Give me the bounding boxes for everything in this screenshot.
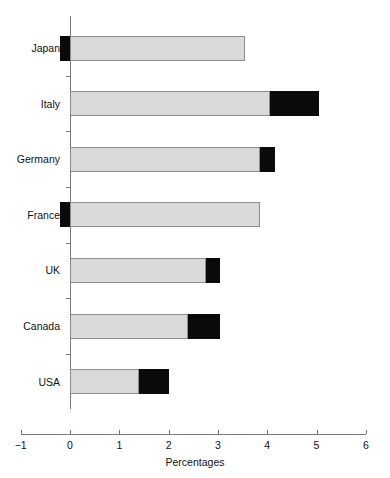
x-tick: [119, 430, 120, 434]
x-tick-label: 6: [363, 440, 369, 451]
x-tick-label: 4: [264, 440, 270, 451]
category-label-france: France: [27, 210, 60, 221]
y-tick: [66, 243, 70, 244]
category-label-italy: Italy: [41, 98, 60, 109]
x-tick-label: 2: [166, 440, 172, 451]
bar-segment-canada-grey: [70, 314, 188, 339]
bar-segment-usa-grey: [70, 369, 139, 394]
x-tick-label: 1: [116, 440, 122, 451]
x-tick: [21, 430, 22, 434]
plot-area: JapanItalyGermanyFranceUKCanadaUSA −1012…: [0, 0, 390, 478]
x-tick: [70, 430, 71, 434]
category-label-canada: Canada: [23, 321, 60, 332]
x-tick: [267, 430, 268, 434]
y-tick: [66, 76, 70, 77]
bar-segment-italy-grey: [70, 91, 270, 116]
bar-segment-usa-black: [139, 369, 169, 394]
bar-segment-france-grey: [70, 202, 260, 227]
x-tick-label: 3: [215, 440, 221, 451]
bar-segment-uk-black: [206, 258, 221, 283]
bar-segment-france-black: [60, 202, 70, 227]
x-axis-line: [21, 434, 366, 435]
category-label-uk: UK: [45, 265, 60, 276]
bar-segment-japan-black: [60, 36, 70, 61]
x-tick: [218, 430, 219, 434]
x-tick-label: 0: [67, 440, 73, 451]
y-tick: [66, 354, 70, 355]
bar-segment-uk-grey: [70, 258, 206, 283]
x-tick: [169, 430, 170, 434]
bar-segment-germany-black: [260, 147, 275, 172]
bar-segment-germany-grey: [70, 147, 260, 172]
bar-segment-japan-grey: [70, 36, 245, 61]
y-tick: [66, 131, 70, 132]
chart-figure: JapanItalyGermanyFranceUKCanadaUSA −1012…: [0, 0, 390, 478]
x-axis-label: Percentages: [0, 456, 390, 468]
y-tick: [66, 187, 70, 188]
x-tick-label: −1: [15, 440, 27, 451]
x-tick-label: 5: [314, 440, 320, 451]
bar-segment-italy-black: [270, 91, 319, 116]
category-label-germany: Germany: [17, 154, 60, 165]
x-tick: [366, 430, 367, 434]
category-label-japan: Japan: [31, 43, 60, 54]
x-tick: [317, 430, 318, 434]
category-label-usa: USA: [38, 376, 60, 387]
bar-segment-canada-black: [188, 314, 220, 339]
y-tick: [66, 298, 70, 299]
